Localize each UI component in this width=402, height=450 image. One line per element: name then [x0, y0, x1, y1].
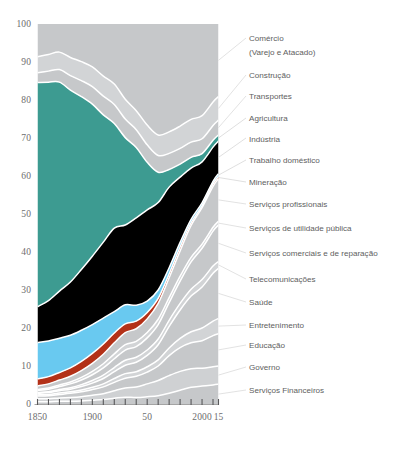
- series-label-mineracao: Mineração: [249, 178, 287, 187]
- area-bands-group: [38, 24, 219, 404]
- x-axis-tick-label: 1850: [28, 412, 48, 422]
- x-axis-tick-label: 50: [142, 412, 152, 422]
- series-label-servicos-financeiros: Serviços Financeiros: [249, 386, 324, 395]
- x-axis-tick-label: 1900: [83, 412, 103, 422]
- series-label-construcao: Construção: [249, 71, 291, 80]
- y-axis-tick-label: 20: [21, 323, 31, 333]
- x-axis-tick-label: 15: [214, 412, 224, 422]
- y-axis-tick-label: 10: [21, 361, 31, 371]
- stacked-area-chart: 1009080706050403020100 1850190050200015 …: [0, 0, 402, 450]
- y-axis-tick-label: 70: [21, 133, 31, 143]
- series-label-educacao: Educação: [249, 341, 285, 350]
- chart-container: 1009080706050403020100 1850190050200015 …: [0, 0, 402, 450]
- y-axis-tick-label: 100: [16, 19, 31, 29]
- series-label-transportes: Transportes: [249, 92, 292, 101]
- series-label-trabalho-domestico: Trabalho doméstico: [249, 156, 320, 165]
- series-label-servicos-profissionais: Serviços profissionais: [249, 200, 327, 209]
- series-label-entretenimento: Entretenimento: [249, 321, 304, 330]
- x-axis-tick-label: 2000: [192, 412, 212, 422]
- series-label-industria: Indústria: [249, 135, 281, 144]
- y-axis-tick-label: 90: [21, 57, 31, 67]
- y-axis-tick-label: 40: [21, 247, 31, 257]
- y-axis-tick-label: 50: [21, 209, 31, 219]
- y-axis-tick-label: 30: [21, 285, 31, 295]
- series-label-comercio-line1: Comércio: [249, 34, 284, 43]
- series-label-governo: Governo: [249, 363, 281, 372]
- series-label-agricultura: Agricultura: [249, 114, 288, 123]
- series-label-comercio-line2: (Varejo e Atacado): [249, 48, 316, 57]
- y-axis-tick-label: 0: [26, 399, 31, 409]
- y-axis-tick-label: 80: [21, 95, 31, 105]
- series-label-servicos-utilidade: Serviços de utilidade pública: [249, 224, 352, 233]
- series-label-servicos-comerciais: Serviços comerciais e de reparação: [249, 249, 378, 258]
- y-axis-tick-label: 60: [21, 171, 31, 181]
- series-label-telecomunicacoes: Telecomunicações: [249, 275, 316, 284]
- series-label-saude: Saúde: [249, 298, 273, 307]
